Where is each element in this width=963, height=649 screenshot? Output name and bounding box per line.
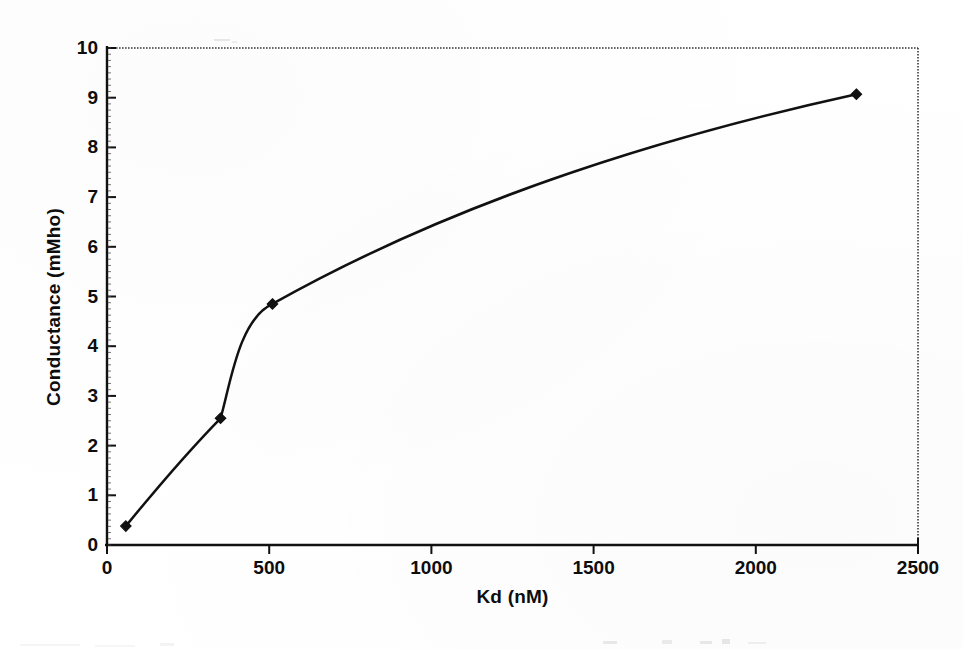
data-point-marker xyxy=(267,299,277,309)
data-point-markers xyxy=(121,89,862,531)
data-series-line xyxy=(126,94,857,526)
chart-figure: Conductance (mMho) Kd (nM) 012345678910 … xyxy=(0,0,963,649)
y-minor-tick-marks xyxy=(108,48,111,545)
data-point-marker xyxy=(851,89,861,99)
plot-canvas xyxy=(0,0,963,649)
